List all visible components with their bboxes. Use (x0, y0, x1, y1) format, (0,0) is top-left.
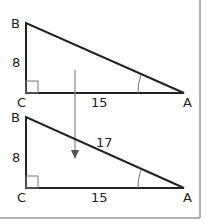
bottom-vertex-b-label: B (11, 110, 20, 125)
top-triangle: B 8 C 15 A (11, 16, 192, 110)
top-triangle-shape (26, 23, 184, 93)
top-vertex-c-label: C (17, 95, 26, 110)
top-vertex-b-label: B (11, 16, 20, 31)
top-side-ca-label: 15 (91, 95, 108, 110)
bottom-angle-a-arc (138, 170, 141, 188)
bottom-side-bc-label: 8 (12, 150, 20, 165)
down-arrow-icon (71, 70, 79, 159)
diagram-canvas: B 8 C 15 A B 8 17 C 15 A (0, 0, 206, 224)
bottom-triangle-shape (26, 117, 184, 188)
top-vertex-a-label: A (183, 95, 192, 110)
bottom-vertex-c-label: C (17, 190, 26, 205)
bottom-side-ab-label: 17 (96, 135, 113, 150)
top-right-angle-marker (26, 81, 38, 93)
bottom-vertex-a-label: A (183, 190, 192, 205)
top-angle-a-arc (138, 75, 141, 93)
bottom-side-ca-label: 15 (91, 190, 108, 205)
bottom-triangle: B 8 17 C 15 A (11, 110, 192, 205)
bottom-right-angle-marker (26, 176, 38, 188)
top-side-bc-label: 8 (12, 55, 20, 70)
